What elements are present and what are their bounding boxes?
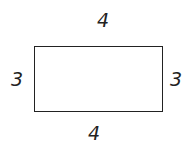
top-side-label: 4 [97, 11, 109, 30]
left-side-label: 3 [11, 70, 23, 89]
bottom-side-label: 4 [88, 124, 100, 143]
right-side-label: 3 [170, 70, 182, 89]
rectangle-shape [34, 46, 163, 112]
